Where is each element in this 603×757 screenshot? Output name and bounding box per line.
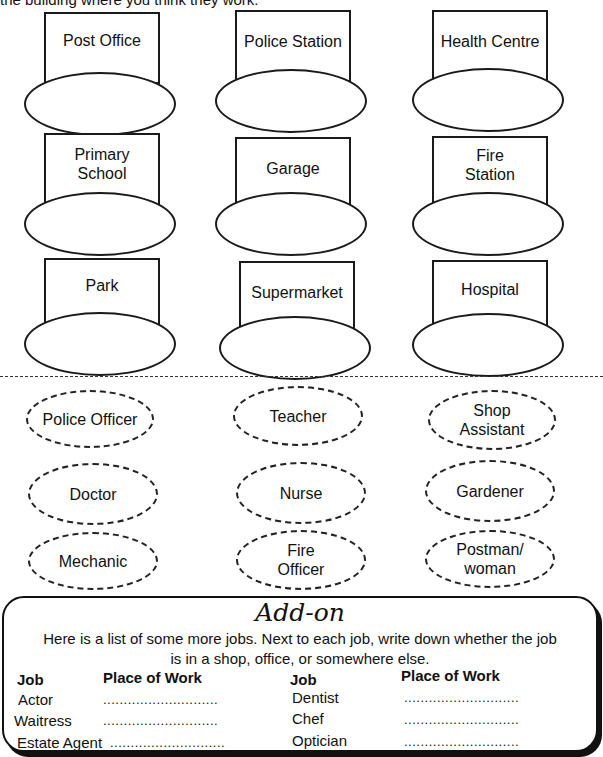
addon-title: Add-on: [4, 598, 596, 628]
job-gardener[interactable]: Gardener: [425, 460, 555, 522]
job-teacher[interactable]: Teacher: [233, 386, 363, 446]
blank-estate-agent[interactable]: ............................: [110, 735, 225, 750]
building-police-station: Police Station: [215, 10, 370, 120]
job-fire-officer[interactable]: Fire Officer: [236, 530, 366, 590]
intro-text: the building where you think they work.: [0, 0, 258, 8]
blank-chef[interactable]: ............................: [404, 712, 519, 727]
building-health-centre: Health Centre: [412, 10, 567, 120]
answer-oval[interactable]: [24, 72, 176, 136]
job-doctor[interactable]: Doctor: [28, 463, 158, 525]
answer-oval[interactable]: [219, 316, 371, 380]
job-optician: Optician: [292, 732, 347, 749]
job-postman-woman[interactable]: Postman/ woman: [425, 530, 555, 588]
job-header-left: Job: [17, 671, 44, 688]
answer-oval[interactable]: [215, 69, 367, 133]
building-garage: Garage: [215, 137, 370, 247]
addon-instructions-line-2: is in a shop, office, or somewhere else.: [4, 649, 596, 669]
job-mechanic[interactable]: Mechanic: [28, 532, 158, 590]
answer-oval[interactable]: [24, 312, 176, 376]
blank-actor[interactable]: ............................: [103, 692, 218, 707]
job-waitress: Waitress: [14, 712, 72, 729]
addon-instructions: Here is a list of some more jobs. Next t…: [4, 629, 596, 669]
blank-optician[interactable]: ............................: [404, 734, 519, 749]
job-chef: Chef: [292, 710, 324, 727]
answer-oval[interactable]: [412, 313, 564, 377]
job-estate-agent: Estate Agent: [17, 734, 102, 751]
blank-waitress[interactable]: ............................: [103, 713, 218, 728]
job-shop-assistant[interactable]: Shop Assistant: [428, 390, 556, 450]
place-header-right: Place of Work: [401, 667, 500, 684]
building-fire-station: Fire Station: [412, 136, 567, 246]
job-police-officer[interactable]: Police Officer: [26, 390, 154, 448]
addon-instructions-line-1: Here is a list of some more jobs. Next t…: [4, 629, 596, 649]
addon-box: Add-on Here is a list of some more jobs.…: [2, 596, 598, 752]
answer-oval[interactable]: [412, 192, 564, 256]
cut-line-divider: [0, 376, 603, 377]
answer-oval[interactable]: [24, 192, 176, 256]
building-post-office: Post Office: [24, 12, 179, 122]
job-dentist: Dentist: [292, 689, 339, 706]
job-nurse[interactable]: Nurse: [236, 462, 366, 524]
job-actor: Actor: [18, 691, 53, 708]
building-supermarket: Supermarket: [219, 261, 374, 371]
building-park: Park: [24, 258, 179, 368]
answer-oval[interactable]: [215, 192, 367, 256]
blank-dentist[interactable]: ............................: [404, 690, 519, 705]
place-header-left: Place of Work: [103, 669, 202, 686]
building-hospital: Hospital: [412, 260, 567, 370]
answer-oval[interactable]: [412, 68, 564, 132]
job-header-right: Job: [290, 671, 317, 688]
building-primary-school: Primary School: [24, 133, 179, 243]
